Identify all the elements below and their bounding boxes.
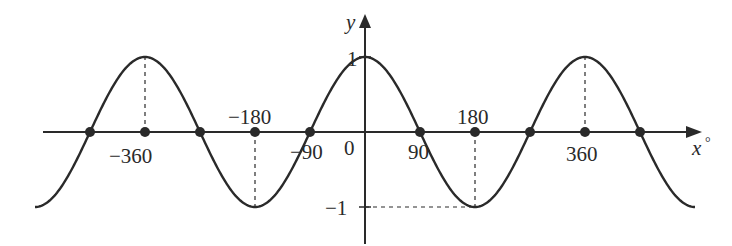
y-axis-label: y <box>344 10 356 34</box>
marked-point <box>415 127 425 137</box>
x-axis-label: x <box>691 136 702 160</box>
tick-label-180: 180 <box>457 105 489 129</box>
marked-point <box>525 127 535 137</box>
y-axis-arrow-icon <box>359 14 371 28</box>
tick-label-neg360: −360 <box>109 144 152 168</box>
cosine-graph: −360 −180 −90 0 90 180 360 1 −1 y x ° <box>0 0 732 246</box>
marked-point <box>85 127 95 137</box>
marked-point <box>635 127 645 137</box>
x-axis-degree-label: ° <box>705 135 711 150</box>
marked-point <box>140 127 150 137</box>
y-tick-label-1: 1 <box>347 47 358 71</box>
marked-point <box>195 127 205 137</box>
tick-label-neg180: −180 <box>228 105 271 129</box>
tick-label-90: 90 <box>408 140 429 164</box>
tick-label-neg90: −90 <box>290 140 323 164</box>
marked-point <box>305 127 315 137</box>
origin-label: 0 <box>344 136 355 160</box>
y-tick-label-neg1: −1 <box>325 196 347 220</box>
tick-label-360: 360 <box>566 142 598 166</box>
marked-point <box>580 127 590 137</box>
